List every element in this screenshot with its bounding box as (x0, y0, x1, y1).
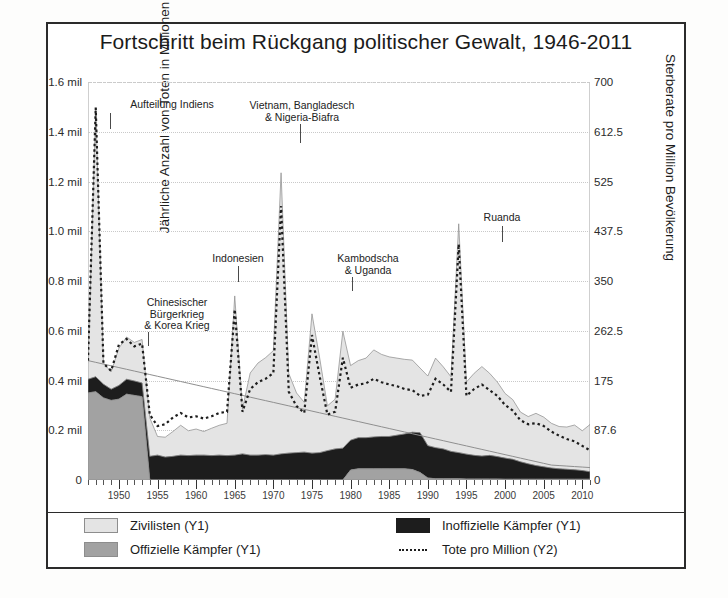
x-tick-2009 (575, 480, 576, 485)
x-tick-1985 (389, 480, 390, 489)
x-tick-1954 (150, 480, 151, 485)
y-right-tick-7: 612.5 (594, 126, 623, 138)
x-label-1955: 1955 (146, 490, 168, 501)
plot-area (88, 82, 590, 480)
legend-civilians[interactable]: Zivilisten (Y1) (84, 518, 209, 533)
legend-official[interactable]: Offizielle Kämpfer (Y1) (84, 542, 261, 557)
x-tick-1961 (204, 480, 205, 485)
x-tick-1949 (111, 480, 112, 485)
y-left-tick-2: 0.4 mil (48, 375, 82, 387)
x-tick-1994 (459, 480, 460, 485)
x-tick-1995 (466, 480, 467, 489)
x-tick-1990 (428, 480, 429, 489)
x-tick-1986 (397, 480, 398, 485)
x-tick-2004 (536, 480, 537, 485)
y-right-tick-2: 175 (594, 375, 613, 387)
x-tick-1957 (173, 480, 174, 485)
x-tick-1982 (366, 480, 367, 485)
x-axis-labels: 1950195519601965197019751980198519901995… (88, 490, 590, 504)
y-right-tick-0: 0 (594, 474, 600, 486)
x-tick-1989 (420, 480, 421, 485)
legend-swatch (396, 518, 430, 533)
x-label-1990: 1990 (417, 490, 439, 501)
y-left-tick-8: 1.6 mil (48, 76, 82, 88)
x-tick-1980 (351, 480, 352, 489)
x-tick-1988 (412, 480, 413, 485)
annotation-indonesien: Indonesien (198, 253, 278, 265)
y-right-tick-6: 525 (594, 176, 613, 188)
x-label-1980: 1980 (339, 490, 361, 501)
x-tick-1993 (451, 480, 452, 485)
x-tick-1984 (381, 480, 382, 485)
legend-label: Inoffizielle Kämpfer (Y1) (442, 518, 581, 533)
x-axis-ticks (88, 480, 590, 490)
legend-divider (48, 512, 684, 513)
y-right-tick-8: 700 (594, 76, 613, 88)
legend-rate[interactable]: Tote pro Million (Y2) (396, 542, 558, 557)
x-tick-1952 (134, 480, 135, 485)
x-tick-1970 (273, 480, 274, 489)
x-tick-1956 (165, 480, 166, 485)
x-tick-2006 (551, 480, 552, 485)
x-tick-1972 (289, 480, 290, 485)
y-left-tick-0: 0 (76, 474, 82, 486)
x-tick-1991 (436, 480, 437, 485)
x-tick-1960 (196, 480, 197, 489)
y-right-tick-3: 262.5 (594, 325, 623, 337)
x-tick-1981 (358, 480, 359, 485)
legend-dotted-swatch (396, 542, 430, 557)
legend-unofficial[interactable]: Inoffizielle Kämpfer (Y1) (396, 518, 581, 533)
annotation-aufteilung-indiens: Aufteilung Indiens (112, 99, 232, 111)
y-left-tick-4: 0.8 mil (48, 275, 82, 287)
x-tick-2003 (528, 480, 529, 485)
x-tick-1951 (127, 480, 128, 485)
x-tick-2000 (505, 480, 506, 489)
annotation-chinesischer-buergerkrieg: Chinesischer Bürgerkrieg & Korea Krieg (122, 297, 232, 332)
annotation-leader-kambodscha-uganda (352, 277, 353, 291)
x-tick-1968 (258, 480, 259, 485)
y-right-tick-1: 87.6 (594, 424, 616, 436)
x-tick-1975 (312, 480, 313, 489)
x-tick-1965 (235, 480, 236, 489)
annotation-leader-chinesischer-buergerkrieg (148, 332, 149, 346)
x-tick-2010 (582, 480, 583, 489)
x-label-1965: 1965 (224, 490, 246, 501)
x-tick-1964 (227, 480, 228, 485)
x-tick-1958 (181, 480, 182, 485)
y-axis-left-ticks: 00.2 mil0.4 mil0.6 mil0.8 mil1.0 mil1.2 … (34, 82, 82, 480)
x-label-2005: 2005 (533, 490, 555, 501)
x-tick-2011 (590, 480, 591, 485)
x-tick-1959 (188, 480, 189, 485)
x-label-1985: 1985 (378, 490, 400, 501)
annotation-leader-ruanda (502, 226, 503, 242)
y-axis-right-ticks: 087.6175262.5350437.5525612.5700 (594, 82, 650, 480)
x-tick-1953 (142, 480, 143, 485)
x-label-1950: 1950 (108, 490, 130, 501)
y-axis-right-title: Sterberate pro Million Bevölkerung (663, 8, 678, 308)
y-right-tick-4: 350 (594, 275, 613, 287)
legend-label: Offizielle Kämpfer (Y1) (130, 542, 261, 557)
legend-swatch (84, 518, 118, 533)
x-tick-1987 (405, 480, 406, 485)
x-label-2010: 2010 (571, 490, 593, 501)
x-label-1970: 1970 (262, 490, 284, 501)
x-tick-2002 (520, 480, 521, 485)
x-tick-2008 (567, 480, 568, 485)
x-tick-1971 (281, 480, 282, 485)
x-tick-2001 (513, 480, 514, 485)
x-tick-1963 (219, 480, 220, 485)
x-label-1960: 1960 (185, 490, 207, 501)
x-tick-1992 (443, 480, 444, 485)
y-left-tick-1: 0.2 mil (48, 424, 82, 436)
chart-legend: Zivilisten (Y1)Inoffizielle Kämpfer (Y1)… (60, 518, 672, 564)
x-label-1975: 1975 (301, 490, 323, 501)
y-left-tick-7: 1.4 mil (48, 126, 82, 138)
x-tick-1973 (297, 480, 298, 485)
x-tick-1996 (474, 480, 475, 485)
x-tick-1955 (158, 480, 159, 489)
x-tick-1999 (497, 480, 498, 485)
x-tick-1969 (266, 480, 267, 485)
x-label-1995: 1995 (455, 490, 477, 501)
annotation-leader-vietnam-bangladesch (300, 124, 301, 143)
page-title: Fortschritt beim Rückgang politischer Ge… (46, 30, 686, 54)
